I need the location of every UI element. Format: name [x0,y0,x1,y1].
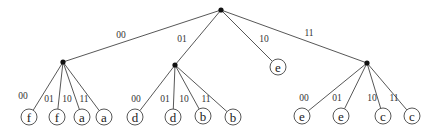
tree-edges [33,10,407,112]
tree-edge [175,65,227,112]
leaf-node: e [294,108,310,124]
tree-diagram: 00011011000110110001101100011011 ffaaddb… [0,0,441,135]
edge-label: 10 [62,94,72,104]
edge-label: 01 [44,94,54,104]
leaf-node: d [165,109,181,125]
root-node [218,7,223,12]
leaf-label: b [200,109,207,124]
leaf-label: c [409,109,415,124]
leaf-label: a [101,110,107,125]
edge-label: 00 [131,94,141,104]
tree-edge [308,63,367,111]
leaf-node: c [404,108,420,124]
tree-edge [173,65,175,109]
leaf-label: c [380,109,386,124]
edge-label: 11 [201,94,210,104]
leaf-node: a [74,109,90,125]
edge-label: 11 [79,94,88,104]
edge-label: 11 [304,28,313,38]
edge-label: 10 [367,93,377,103]
tree-edge [63,10,221,62]
leaf-node: e [270,59,286,75]
leaf-node: d [127,109,143,125]
leaf-node: b [225,109,241,125]
leaf-label: a [79,110,85,125]
leaf-label: e [338,109,344,124]
leaf-node: f [21,109,37,125]
leaf-node: a [96,109,112,125]
edge-label: 00 [116,30,126,40]
internal-node [172,62,177,67]
leaf-node: c [375,108,391,124]
edge-label: 11 [389,93,398,103]
edge-label: 00 [18,91,28,101]
internal-node [60,59,65,64]
leaf-node: e [333,108,349,124]
edge-labels: 00011011000110110001101100011011 [18,28,399,104]
leaf-label: b [230,110,237,125]
leaf-label: f [27,110,32,125]
edge-label: 00 [299,93,309,103]
internal-nodes [60,7,369,67]
leaf-label: f [55,110,60,125]
edge-label: 01 [332,93,342,103]
tree-edge [221,10,367,63]
leaf-label: d [170,110,177,125]
leaf-node: b [195,108,211,124]
edge-label: 01 [160,94,170,104]
tree-edge [345,63,367,109]
leaf-label: e [275,60,281,75]
edge-label: 10 [179,94,189,104]
leaf-label: e [299,109,305,124]
leaf-node: f [49,109,65,125]
leaf-label: d [132,110,139,125]
edge-label: 10 [259,34,269,44]
internal-node [364,60,369,65]
edge-label: 01 [177,34,187,44]
